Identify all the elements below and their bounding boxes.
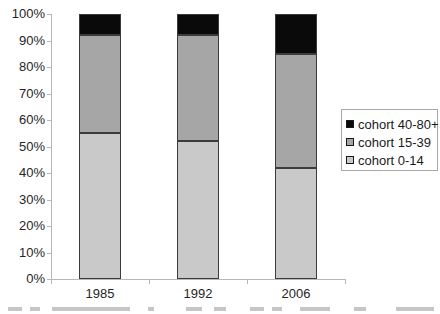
cropped-caption-mark xyxy=(186,307,202,311)
legend-item: cohort 40-80+ xyxy=(346,115,433,133)
bar-segment-cohort-0-14 xyxy=(275,168,317,279)
y-axis-tick-label: 20% xyxy=(0,219,45,233)
y-axis-tick-mark xyxy=(47,147,51,148)
cropped-caption-mark xyxy=(148,307,154,311)
x-axis-tick-mark xyxy=(51,280,52,284)
y-axis-tick-mark xyxy=(47,41,51,42)
legend: cohort 40-80+cohort 15-39cohort 0-14 xyxy=(341,109,438,171)
cropped-caption-mark xyxy=(214,307,226,311)
y-axis-tick-label: 70% xyxy=(0,87,45,101)
legend-label: cohort 40-80+ xyxy=(358,117,439,132)
cropped-caption-mark xyxy=(30,307,40,311)
cropped-caption-mark xyxy=(396,307,434,311)
y-axis-tick-label: 30% xyxy=(0,193,45,207)
cropped-caption-mark xyxy=(272,307,282,311)
bar-segment-cohort-40-80+ xyxy=(79,14,121,35)
x-axis-tick-mark xyxy=(345,280,346,284)
bar-segment-cohort-40-80+ xyxy=(275,14,317,54)
legend-item: cohort 15-39 xyxy=(346,133,433,151)
cropped-caption-mark xyxy=(250,307,264,311)
y-axis-tick-label: 50% xyxy=(0,140,45,154)
cropped-caption-mark xyxy=(52,307,130,311)
bar-segment-cohort-0-14 xyxy=(177,141,219,279)
x-axis-category-label: 1985 xyxy=(70,287,130,301)
x-axis-tick-mark xyxy=(247,280,248,284)
y-axis-tick-mark xyxy=(47,226,51,227)
y-axis-tick-label: 10% xyxy=(0,246,45,260)
legend-label: cohort 0-14 xyxy=(358,153,424,168)
y-axis-tick-mark xyxy=(47,120,51,121)
legend-swatch-icon xyxy=(346,120,354,128)
y-axis-tick-mark xyxy=(47,14,51,15)
y-axis-tick-label: 100% xyxy=(0,7,45,21)
bar-segment-cohort-0-14 xyxy=(79,133,121,279)
y-axis-tick-label: 90% xyxy=(0,34,45,48)
bar-segment-cohort-15-39 xyxy=(275,54,317,168)
legend-swatch-icon xyxy=(346,156,354,164)
y-axis-tick-label: 0% xyxy=(0,272,45,286)
y-axis-tick-label: 80% xyxy=(0,60,45,74)
y-axis-tick-mark xyxy=(47,200,51,201)
y-axis-tick-mark xyxy=(47,67,51,68)
legend-label: cohort 15-39 xyxy=(358,135,431,150)
bar-segment-cohort-15-39 xyxy=(79,35,121,133)
bar-segment-cohort-40-80+ xyxy=(177,14,219,35)
bar-segment-cohort-15-39 xyxy=(177,35,219,141)
legend-swatch-icon xyxy=(346,138,354,146)
y-axis-tick-mark xyxy=(47,253,51,254)
cropped-caption-mark xyxy=(300,307,330,311)
cropped-caption-mark xyxy=(8,307,22,311)
y-axis-tick-label: 60% xyxy=(0,113,45,127)
y-axis-tick-mark xyxy=(47,173,51,174)
x-axis-category-label: 2006 xyxy=(266,287,326,301)
cropped-caption-mark xyxy=(354,307,366,311)
stacked-bar-chart: cohort 40-80+cohort 15-39cohort 0-14 100… xyxy=(0,0,440,314)
x-axis-category-label: 1992 xyxy=(168,287,228,301)
y-axis-tick-label: 40% xyxy=(0,166,45,180)
legend-item: cohort 0-14 xyxy=(346,151,433,169)
y-axis-tick-mark xyxy=(47,94,51,95)
x-axis-tick-mark xyxy=(149,280,150,284)
